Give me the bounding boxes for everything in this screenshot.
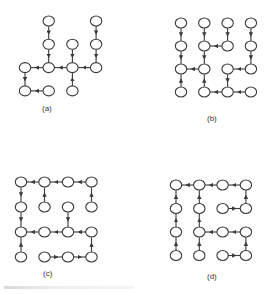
tree-node: [222, 41, 233, 51]
caption-remnant: [4, 286, 134, 289]
tree-node: [62, 227, 73, 237]
tree-node: [199, 18, 210, 28]
tree-node: [245, 41, 256, 51]
tree-node: [86, 177, 97, 187]
tree-node: [222, 64, 233, 74]
tree-node: [67, 86, 78, 96]
tree-node: [170, 251, 181, 261]
tree-node: [15, 252, 26, 262]
tree-node: [62, 177, 73, 187]
tree-node: [240, 251, 251, 261]
panel-d: [170, 180, 251, 261]
tree-node: [15, 227, 26, 237]
tree-node: [39, 202, 50, 212]
tree-node: [90, 16, 101, 26]
tree-node: [15, 177, 26, 187]
tree-node: [245, 18, 256, 28]
tree-node: [245, 87, 256, 97]
tree-node: [240, 180, 251, 190]
tree-node: [43, 63, 54, 73]
tree-node: [194, 227, 205, 237]
tree-node: [62, 202, 73, 212]
tree-node: [86, 252, 97, 262]
tree-node: [217, 251, 228, 261]
tree-node: [170, 204, 181, 214]
tree-node: [240, 227, 251, 237]
tree-node: [217, 180, 228, 190]
tree-node: [194, 204, 205, 214]
tree-node: [194, 251, 205, 261]
tree-node: [175, 41, 186, 51]
tree-node: [19, 63, 30, 73]
tree-node: [175, 18, 186, 28]
tree-node: [245, 64, 256, 74]
tree-node: [217, 204, 228, 214]
panel-label-c: (c): [43, 269, 53, 278]
tree-node: [39, 177, 50, 187]
tree-node: [39, 227, 50, 237]
panel-label-a: (a): [42, 104, 52, 113]
spanning-tree-figure: (a) (b) (c) (d): [0, 0, 275, 294]
tree-node: [175, 87, 186, 97]
tree-node: [90, 63, 101, 73]
tree-node: [175, 64, 186, 74]
tree-node: [67, 39, 78, 49]
tree-node: [43, 16, 54, 26]
panel-a: [19, 16, 102, 96]
tree-node: [194, 180, 205, 190]
tree-node: [199, 64, 210, 74]
tree-node: [222, 18, 233, 28]
tree-node: [240, 204, 251, 214]
tree-node: [170, 180, 181, 190]
tree-node: [15, 202, 26, 212]
tree-node: [86, 202, 97, 212]
panel-b: [175, 18, 256, 97]
panel-label-d: (d): [207, 272, 217, 281]
panel-label-b: (b): [207, 114, 217, 123]
tree-node: [62, 252, 73, 262]
tree-node: [67, 63, 78, 73]
tree-node: [90, 39, 101, 49]
tree-node: [19, 86, 30, 96]
tree-node: [199, 41, 210, 51]
tree-node: [39, 252, 50, 262]
tree-node: [199, 87, 210, 97]
tree-node: [222, 87, 233, 97]
tree-node: [170, 227, 181, 237]
tree-node: [43, 39, 54, 49]
panel-c: [15, 177, 97, 262]
tree-node: [86, 227, 97, 237]
tree-node: [217, 227, 228, 237]
tree-node: [43, 86, 54, 96]
